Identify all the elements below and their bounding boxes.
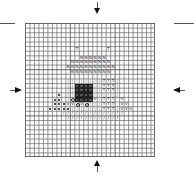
right-center-arrow-icon	[173, 87, 180, 93]
right-center-arrow-stem	[180, 90, 185, 91]
stitch-cell-V: V	[129, 107, 133, 112]
stitch-cell-slash: /	[115, 116, 119, 121]
top-center-arrow-icon	[94, 8, 100, 14]
left-center-arrow-icon	[15, 87, 22, 93]
stitch-cell-circle	[124, 74, 128, 79]
bottom-center-arrow-stem	[97, 166, 98, 172]
stitch-chart-grid: TTNNNNNNNNNNNNNNNNNNNNNNNNNNNNNNNNNNN|||…	[25, 23, 155, 157]
stitch-cell-slash: /	[120, 111, 124, 116]
top-center-arrow-stem	[97, 2, 98, 8]
top-left-rule	[0, 23, 15, 24]
left-center-arrow-stem	[10, 90, 15, 91]
top-right-rule	[174, 23, 194, 24]
